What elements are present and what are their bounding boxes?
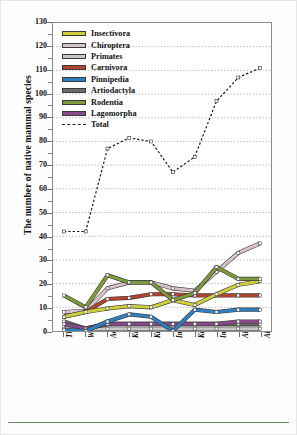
data-point-marker [84, 230, 87, 233]
legend-item-label: Artiodactyla [91, 86, 135, 95]
data-point-marker [259, 327, 262, 330]
legend-item-primates[interactable]: Primates [62, 51, 137, 62]
data-point-marker [237, 251, 240, 254]
legend-item-insectivora[interactable]: Insectivora [62, 28, 137, 39]
data-point-marker [259, 277, 262, 280]
data-point-marker [84, 306, 87, 309]
legend-swatch-icon [62, 31, 86, 36]
legend-item-label: Lagomorpha [91, 109, 137, 118]
data-point-marker [106, 147, 109, 150]
x-axis-tick [239, 332, 240, 337]
data-point-marker [215, 266, 218, 269]
footer-rule [8, 422, 289, 423]
data-point-marker [171, 287, 174, 290]
x-axis-tick [173, 332, 174, 337]
data-point-marker [171, 293, 174, 296]
data-point-marker [259, 242, 262, 245]
data-point-marker [237, 294, 240, 297]
data-point-marker [106, 320, 109, 323]
data-point-marker [171, 322, 174, 325]
y-axis-tick-label: 80 [21, 137, 47, 145]
data-point-marker [215, 327, 218, 330]
data-point-marker [150, 306, 153, 309]
legend-swatch-icon [62, 100, 86, 105]
data-point-marker [128, 322, 131, 325]
data-point-marker [193, 303, 196, 306]
data-point-marker [128, 296, 131, 299]
data-point-marker [171, 171, 174, 174]
y-axis-tick-label: 130 [21, 18, 47, 26]
data-point-marker [150, 140, 153, 143]
data-point-marker [150, 327, 153, 330]
data-point-marker [150, 315, 153, 318]
legend-swatch-icon [62, 54, 86, 59]
data-point-marker [106, 327, 109, 330]
legend-item-pinnipedia[interactable]: Pinnipedia [62, 74, 137, 85]
data-point-marker [237, 327, 240, 330]
legend-item-carnivora[interactable]: Carnivora [62, 62, 137, 73]
chart-legend: InsectivoraChiropteraPrimatesCarnivoraPi… [62, 28, 137, 131]
data-point-marker [106, 274, 109, 277]
legend-item-lagomorpha[interactable]: Lagomorpha [62, 108, 137, 119]
y-axis-tick [46, 332, 52, 333]
legend-swatch-icon [62, 88, 86, 93]
legend-item-label: Total [91, 120, 109, 129]
legend-item-label: Insectivora [91, 29, 130, 38]
y-axis-tick-label: 100 [21, 90, 47, 98]
x-axis-tick [151, 332, 152, 337]
y-axis-tick-label: 30 [21, 256, 47, 264]
legend-item-label: Rodentia [91, 98, 123, 107]
data-point-marker [150, 281, 153, 284]
y-axis-tick-label: 20 [21, 280, 47, 288]
legend-item-artiodactyla[interactable]: Artiodactyla [62, 85, 137, 96]
data-point-marker [237, 320, 240, 323]
data-point-marker [237, 76, 240, 79]
legend-item-total[interactable]: Total [62, 119, 137, 130]
legend-item-label: Pinnipedia [91, 75, 129, 84]
data-point-marker [193, 308, 196, 311]
x-axis-tick [217, 332, 218, 337]
x-axis-tick [63, 332, 64, 337]
data-point-marker [215, 311, 218, 314]
x-axis-tick [107, 332, 108, 337]
data-point-marker [62, 230, 65, 233]
data-point-marker [62, 315, 65, 318]
data-point-marker [193, 327, 196, 330]
y-axis-tick-label: 40 [21, 233, 47, 241]
data-point-marker [128, 313, 131, 316]
data-point-marker [193, 322, 196, 325]
data-point-marker [106, 287, 109, 290]
y-axis-tick-label: 10 [21, 304, 47, 312]
data-point-marker [215, 322, 218, 325]
data-point-marker [193, 292, 196, 295]
data-point-marker [259, 294, 262, 297]
y-axis-tick-label: 60 [21, 185, 47, 193]
data-point-marker [62, 328, 65, 331]
legend-item-label: Carnivora [91, 63, 127, 72]
legend-swatch-icon [62, 43, 86, 48]
legend-item-label: Chiroptera [91, 41, 130, 50]
data-point-marker [259, 308, 262, 311]
legend-swatch-icon [62, 124, 86, 125]
x-axis-tick [85, 332, 86, 337]
data-point-marker [62, 322, 65, 325]
data-point-marker [128, 136, 131, 139]
data-point-marker [128, 327, 131, 330]
x-axis-tick [261, 332, 262, 337]
data-point-marker [128, 305, 131, 308]
legend-item-rodentia[interactable]: Rodentia [62, 96, 137, 107]
data-point-marker [259, 67, 262, 70]
legend-item-chiroptera[interactable]: Chiroptera [62, 39, 137, 50]
y-axis-tick-label: 110 [21, 66, 47, 74]
data-point-marker [193, 155, 196, 158]
data-point-marker [150, 293, 153, 296]
data-point-marker [150, 322, 153, 325]
data-point-marker [62, 294, 65, 297]
y-axis-tick-label: 0 [21, 328, 47, 336]
chart-figure: The number of native mammal species 0102… [0, 0, 297, 435]
x-axis-tick [129, 332, 130, 337]
data-point-marker [237, 283, 240, 286]
data-point-marker [171, 299, 174, 302]
data-point-marker [237, 277, 240, 280]
y-axis-tick-label: 120 [21, 42, 47, 50]
